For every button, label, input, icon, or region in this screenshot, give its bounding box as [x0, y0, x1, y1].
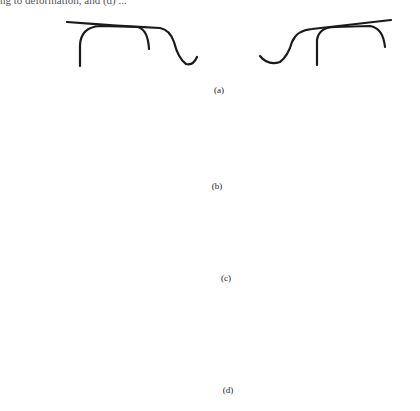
panel-label-c: (c)	[221, 273, 231, 283]
panel-label-a: (a)	[214, 85, 224, 95]
tip-curve	[317, 26, 385, 65]
flap-curve	[67, 22, 197, 64]
figure-canvas	[0, 0, 420, 411]
panel-a-right	[260, 20, 391, 65]
panel-label-b: (b)	[212, 181, 223, 191]
tip-curve	[80, 26, 149, 66]
panel-a-left	[67, 22, 197, 66]
panel-label-d: (d)	[223, 385, 234, 395]
